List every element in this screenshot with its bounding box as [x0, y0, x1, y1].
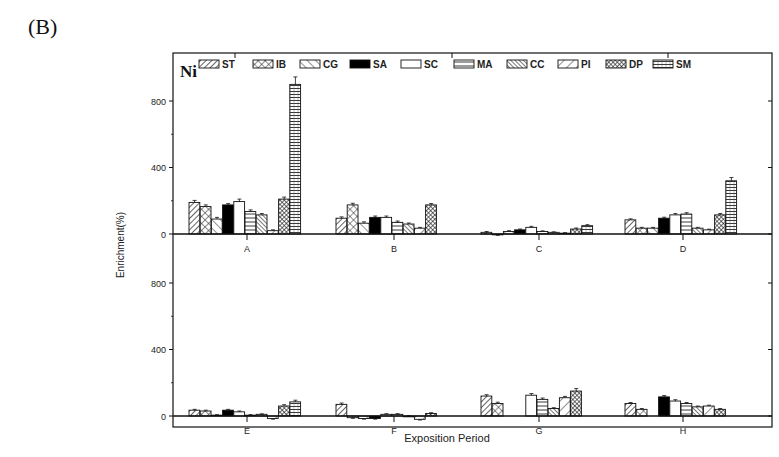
legend-label: SC [424, 59, 438, 70]
bar-MA-B [392, 222, 403, 234]
legend-swatch [199, 60, 219, 68]
legend-swatch [401, 60, 421, 68]
bar-MA-A [245, 212, 256, 234]
element-label: Ni [180, 62, 197, 81]
bar-SA-H [659, 397, 670, 416]
bar-SC-C [526, 227, 537, 234]
legend: STIBCGSASCMACCPIDPSM [199, 59, 691, 70]
bar-IB-B [347, 205, 358, 234]
x-tick-label: C [536, 244, 543, 254]
bar-PI-G [559, 398, 570, 416]
legend-item-ST: ST [199, 59, 235, 70]
bar-ST-G [481, 396, 492, 416]
bar-ST-B [336, 218, 347, 234]
bar-SC-D [670, 215, 681, 234]
x-tick-label: D [680, 244, 687, 254]
bar-DP-B [426, 205, 437, 234]
legend-swatch [507, 60, 527, 68]
bar-SA-E [223, 410, 234, 416]
bar-DP-A [279, 199, 290, 234]
bar-SA-A [223, 205, 234, 234]
bar-IB-E [200, 411, 211, 416]
bars-layer [189, 77, 737, 420]
bar-CG-B [358, 223, 369, 234]
bar-ST-D [625, 220, 636, 234]
bar-DP-H [715, 409, 726, 416]
plot-border [173, 53, 772, 427]
y-axis-label: Enrichment(%) [115, 212, 126, 278]
bar-IB-A [200, 207, 211, 234]
bar-SC-G [526, 395, 537, 416]
y-tick-label: 0 [161, 230, 166, 240]
plot-frame [173, 53, 772, 427]
bar-PI-H [703, 406, 714, 416]
legend-item-PI: PI [558, 59, 591, 70]
legend-item-CC: CC [507, 59, 544, 70]
bar-SM-A [290, 84, 301, 234]
x-tick-label: H [680, 426, 687, 436]
bar-chart: 0400800ABCD0400800EFGH STIBCGSASCMACCPID… [0, 0, 779, 457]
bar-IB-H [636, 409, 647, 416]
legend-swatch [454, 60, 474, 68]
legend-swatch [253, 60, 273, 68]
bar-MA-H [681, 404, 692, 416]
bar-CC-A [256, 215, 267, 234]
bar-ST-F [336, 404, 347, 416]
legend-item-IB: IB [253, 59, 286, 70]
bar-ST-H [625, 404, 636, 416]
x-tick-label: B [391, 244, 397, 254]
legend-item-DP: DP [606, 59, 643, 70]
legend-label: ST [222, 59, 235, 70]
legend-label: PI [581, 59, 591, 70]
bar-ST-A [189, 202, 200, 234]
legend-label: MA [477, 59, 493, 70]
legend-swatch [653, 60, 673, 68]
bar-SM-E [290, 402, 301, 416]
legend-item-SA: SA [350, 59, 387, 70]
legend-item-SC: SC [401, 59, 438, 70]
legend-swatch [350, 60, 370, 68]
bar-SA-B [370, 217, 381, 234]
bar-ST-E [189, 410, 200, 416]
legend-swatch [558, 60, 578, 68]
bar-DP-G [571, 391, 582, 416]
y-tick-label: 800 [151, 279, 166, 289]
legend-swatch [300, 60, 320, 68]
legend-swatch [606, 60, 626, 68]
bar-DP-E [279, 406, 290, 416]
bar-MA-D [681, 214, 692, 234]
bar-IB-G [492, 404, 503, 416]
bar-CC-D [692, 228, 703, 234]
axes-layer: 0400800ABCD0400800EFGH [151, 53, 772, 436]
legend-item-SM: SM [653, 59, 691, 70]
bar-CG-D [647, 228, 658, 234]
x-tick-label: G [535, 426, 542, 436]
bar-SC-H [670, 401, 681, 416]
bar-SC-A [234, 202, 245, 234]
bar-CC-B [403, 224, 414, 234]
bar-SA-D [659, 218, 670, 234]
y-tick-label: 400 [151, 345, 166, 355]
x-tick-label: A [244, 244, 250, 254]
bar-PI-B [414, 228, 425, 234]
legend-label: DP [629, 59, 643, 70]
bar-MA-G [537, 399, 548, 416]
y-tick-label: 400 [151, 163, 166, 173]
bar-SM-D [726, 181, 737, 234]
legend-label: CG [323, 59, 338, 70]
bar-DP-D [715, 215, 726, 234]
bar-DP-C [571, 229, 582, 234]
bar-SM-C [582, 226, 593, 234]
x-tick-label: E [244, 426, 250, 436]
legend-label: CC [530, 59, 544, 70]
y-tick-label: 0 [161, 412, 166, 422]
legend-label: IB [276, 59, 286, 70]
legend-label: SM [676, 59, 691, 70]
bar-CG-A [211, 219, 222, 234]
y-tick-label: 800 [151, 97, 166, 107]
x-axis-label: Exposition Period [404, 432, 490, 444]
legend-item-CG: CG [300, 59, 338, 70]
bar-SC-B [381, 217, 392, 234]
bar-CC-H [692, 407, 703, 416]
legend-label: SA [373, 59, 387, 70]
